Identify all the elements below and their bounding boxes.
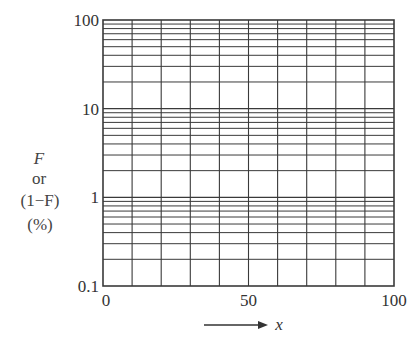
y-tick-label-10: 10	[82, 100, 99, 119]
semilog-chart: 100 10 1 0.1 0 50 100 F or (1−F) (%) x	[0, 0, 409, 346]
x-tick-label-0: 0	[102, 291, 111, 310]
y-axis-label-line-4: (%)	[27, 215, 52, 234]
x-tick-label-100: 100	[381, 291, 407, 310]
y-axis-label-line-3: (1−F)	[21, 191, 60, 210]
y-tick-label-1: 1	[91, 188, 100, 207]
x-tick-label-50: 50	[240, 291, 257, 310]
y-tick-label-100: 100	[74, 11, 100, 30]
x-axis-label: x	[274, 315, 283, 334]
x-axis-arrow-icon	[204, 321, 268, 329]
y-axis-label-line-1: F	[33, 149, 45, 168]
grid	[103, 20, 394, 286]
y-axis-label-line-2: or	[32, 169, 47, 188]
y-tick-label-0.1: 0.1	[78, 277, 99, 296]
